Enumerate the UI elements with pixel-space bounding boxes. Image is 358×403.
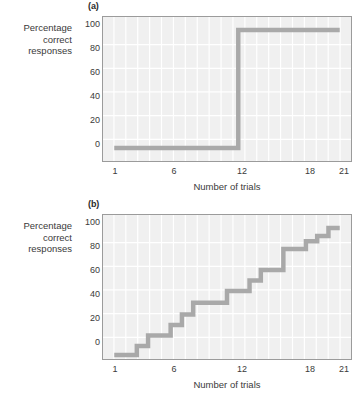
panel-a-ytick-80: 80 — [74, 43, 100, 53]
panel-a-xtick-6: 6 — [164, 166, 184, 176]
panel-a-ytick-60: 60 — [74, 67, 100, 77]
panel-a-label: (a) — [88, 1, 99, 11]
panel-b-label: (b) — [88, 199, 99, 209]
panel-b-ytick-40: 40 — [74, 289, 100, 299]
panel-b-xtick-6: 6 — [164, 364, 184, 374]
panel-b-xtick-12: 12 — [232, 364, 252, 374]
y-axis-title-line-3: responses — [0, 243, 72, 255]
panel-a-ytick-40: 40 — [74, 91, 100, 101]
panel-b-ytick-80: 80 — [74, 241, 100, 251]
y-axis-title-line-2: correct — [0, 34, 72, 46]
panel-a: (a) Percentage correct responses 100 80 … — [0, 0, 358, 200]
panel-b-xtick-21: 21 — [334, 364, 354, 374]
panel-b: (b) Percentage correct responses 100 80 … — [0, 198, 358, 403]
panel-b-xtick-18: 18 — [300, 364, 320, 374]
panel-a-xtick-12: 12 — [232, 166, 252, 176]
panel-a-xtick-1: 1 — [105, 166, 125, 176]
panel-a-y-axis-title: Percentage correct responses — [0, 22, 72, 57]
panel-a-xtick-18: 18 — [300, 166, 320, 176]
y-axis-title-line-1: Percentage — [0, 22, 72, 34]
panel-b-ytick-60: 60 — [74, 265, 100, 275]
panel-a-ytick-100: 100 — [74, 19, 100, 29]
y-axis-title-line-3: responses — [0, 45, 72, 57]
panel-a-data-line — [103, 17, 351, 161]
panel-a-xtick-21: 21 — [334, 166, 354, 176]
panel-b-ytick-20: 20 — [74, 313, 100, 323]
panel-b-ytick-0: 0 — [74, 337, 100, 347]
panel-b-data-line — [103, 215, 351, 359]
figure-container: (a) Percentage correct responses 100 80 … — [0, 0, 358, 403]
y-axis-title-line-2: correct — [0, 232, 72, 244]
panel-a-plot-area — [102, 16, 352, 162]
panel-b-xtick-1: 1 — [105, 364, 125, 374]
panel-a-x-axis-title: Number of trials — [102, 181, 352, 192]
panel-b-y-axis-title: Percentage correct responses — [0, 220, 72, 255]
panel-a-ytick-20: 20 — [74, 115, 100, 125]
y-axis-title-line-1: Percentage — [0, 220, 72, 232]
panel-a-ytick-0: 0 — [74, 139, 100, 149]
panel-b-plot-area — [102, 214, 352, 360]
panel-b-x-axis-title: Number of trials — [102, 379, 352, 390]
panel-b-ytick-100: 100 — [74, 217, 100, 227]
